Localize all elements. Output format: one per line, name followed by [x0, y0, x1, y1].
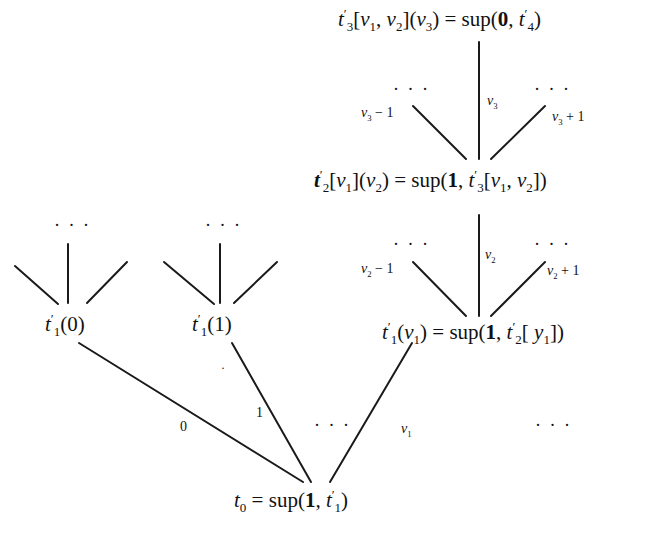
edge-root-to-t1-0 — [79, 343, 303, 482]
edge-root-to-t1-v1 — [330, 343, 412, 482]
var-v1: v — [404, 320, 413, 344]
edge-label-v1: v1 — [401, 422, 412, 436]
paren: ) — [341, 488, 348, 512]
op: − 1 — [372, 261, 394, 276]
edge-t1-1-right — [234, 262, 277, 303]
paren: ) — [420, 320, 427, 344]
edge-label-v3-minus-1: v3 − 1 — [361, 106, 393, 120]
edge-t1-v1-right — [491, 262, 545, 316]
edge-t2-right — [491, 106, 545, 159]
edge-root-to-t1-1 — [232, 343, 311, 482]
bracket: [ — [484, 168, 491, 192]
comma: , — [496, 320, 507, 344]
ellipsis-t1-0: · · · — [54, 216, 91, 234]
var-v2: v — [387, 7, 396, 31]
edge-label-v2-minus-1: v2 − 1 — [361, 262, 393, 276]
bracket: ]) — [533, 168, 547, 192]
ellipsis-t2-left: · · · — [393, 80, 430, 98]
bracket: [ — [522, 320, 534, 344]
op: − 1 — [372, 105, 394, 120]
bold-zero: 0 — [498, 7, 509, 31]
argument: (0) — [60, 312, 85, 336]
bracket: ]( — [352, 168, 366, 192]
edge-t1-1-left — [164, 262, 214, 304]
var-v1: v — [491, 168, 500, 192]
ellipsis-t2-right: · · · — [534, 80, 571, 98]
edge-label-0: 0 — [180, 420, 187, 434]
bold-one: 1 — [486, 320, 497, 344]
ellipsis-t1v1-right: · · · — [534, 235, 571, 253]
ellipsis-root-right: · · · — [535, 416, 572, 434]
edge-label-v2-plus-1: v2 + 1 — [547, 264, 579, 278]
edge-t1-0-left — [15, 266, 58, 304]
bold-one: 1 — [447, 168, 458, 192]
node-t1-0: t′1(0) — [45, 314, 85, 335]
comma: , — [508, 7, 519, 31]
node-t2: t′2[v1](v2) = sup(1, t′3[v1, v2]) — [314, 170, 547, 191]
edge-label-1: 1 — [256, 406, 263, 420]
ellipsis-t1-1: · · · — [205, 216, 242, 234]
comma: , — [376, 7, 387, 31]
node-t3: t′3[v1, v2](v3) = sup(0, t′4) — [338, 9, 541, 30]
var-y1: y — [534, 320, 543, 344]
edge-t1-v1-left — [413, 262, 466, 316]
paren: ) — [382, 168, 389, 192]
subscript: 3 — [493, 101, 497, 111]
node-root: t0 = sup(1, t′1) — [234, 490, 348, 511]
bracket: ]( — [402, 7, 416, 31]
equals-sup: = sup( — [246, 488, 305, 512]
edge-label-v3: v3 — [487, 94, 498, 108]
node-t1-v1: t′1(v1) = sup(1, t′2[ y1]) — [382, 322, 564, 343]
equals-sup: = sup( — [389, 168, 448, 192]
edge-label-v2: v2 — [485, 248, 496, 262]
comma: , — [458, 168, 469, 192]
ellipsis-t1v1-left: · · · — [393, 235, 430, 253]
argument: (1) — [207, 312, 232, 336]
subscript: 1 — [407, 429, 411, 439]
stray-dot: · — [221, 362, 225, 374]
var-v2: v — [366, 168, 375, 192]
edge-t1-0-right — [87, 262, 127, 303]
edge-label-v3-plus-1: v3 + 1 — [552, 110, 584, 124]
ellipsis-root-mid: · · · — [314, 416, 351, 434]
op: + 1 — [558, 263, 580, 278]
edge-t2-left — [413, 106, 466, 159]
comma: , — [506, 168, 517, 192]
var-v1: v — [336, 168, 345, 192]
op: + 1 — [563, 109, 585, 124]
var-v2: v — [517, 168, 526, 192]
paren: ) — [534, 7, 541, 31]
equals-sup: = sup( — [439, 7, 498, 31]
subscript: 2 — [491, 255, 495, 265]
var-v3: v — [416, 7, 425, 31]
bold-one: 1 — [305, 488, 316, 512]
equals-sup: = sup( — [427, 320, 486, 344]
bracket: ]) — [550, 320, 564, 344]
node-t1-1: t′1(1) — [192, 314, 232, 335]
var-v1: v — [360, 7, 369, 31]
t1-symbol: , t — [315, 488, 331, 512]
